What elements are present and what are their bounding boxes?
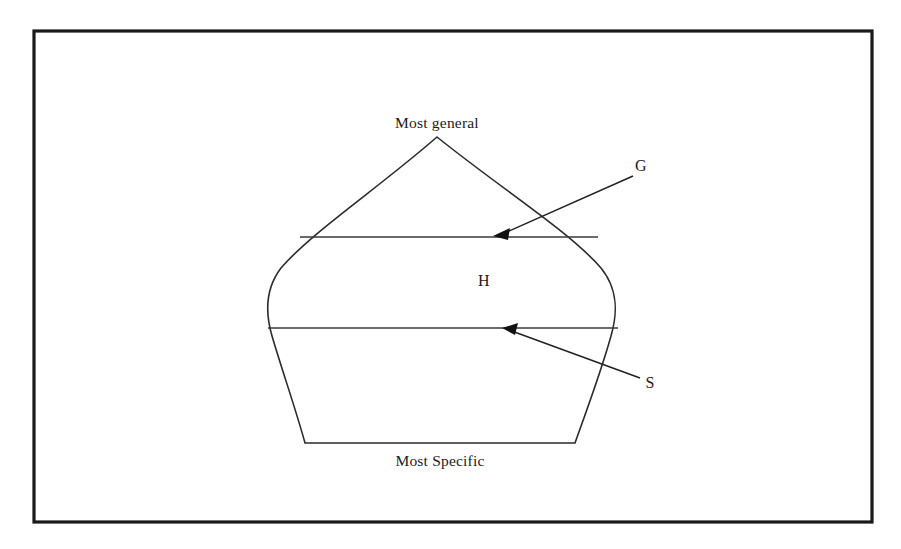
most-general-label: Most general	[395, 114, 479, 131]
figure-border	[34, 31, 872, 522]
g-label: G	[635, 157, 647, 174]
figure-canvas: Most general G H S Most Specific	[0, 0, 901, 549]
hypothesis-region-label: H	[478, 272, 490, 289]
s-leader-line	[509, 330, 640, 378]
s-label: S	[645, 374, 654, 391]
version-space-diagram: Most general G H S Most Specific	[0, 0, 901, 549]
g-arrow-head	[493, 228, 510, 240]
g-leader-line	[500, 176, 633, 235]
most-specific-label: Most Specific	[395, 452, 484, 469]
hypothesis-space-outline	[268, 137, 616, 443]
